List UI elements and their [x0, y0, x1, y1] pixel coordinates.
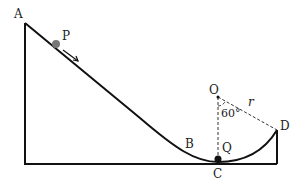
ball-p: [52, 40, 60, 48]
physics-diagram: A P B Q C O D r 60°: [0, 0, 305, 195]
label-angle: 60°: [221, 107, 241, 120]
label-b: B: [185, 137, 194, 151]
track: [24, 23, 277, 164]
label-c: C: [213, 167, 222, 181]
label-a: A: [13, 7, 23, 21]
label-r: r: [248, 95, 255, 109]
label-d: D: [280, 119, 290, 133]
label-o: O: [209, 83, 219, 97]
ball-q: [215, 156, 222, 163]
label-p: P: [62, 29, 70, 43]
label-q: Q: [222, 141, 232, 155]
